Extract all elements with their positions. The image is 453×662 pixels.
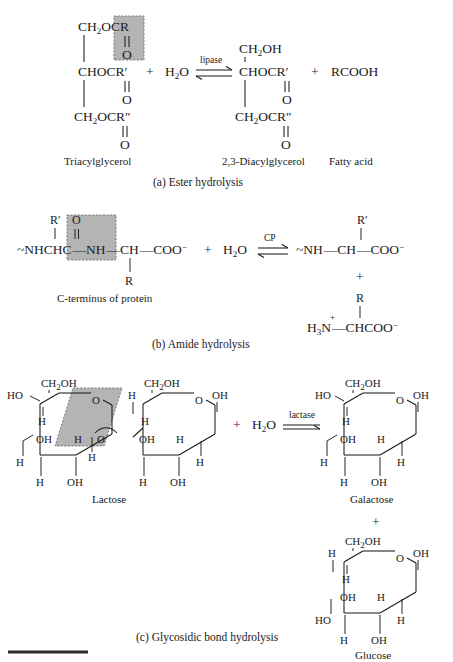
label-diacylglycerol: 2,3-Diacylglycerol — [222, 155, 305, 167]
galactose-ho: HO — [315, 389, 331, 401]
galactose-h-upper: H — [342, 415, 350, 427]
lactose-glc-ch2oh: CH2OH — [144, 377, 180, 392]
lactose-gal-ch2oh: CH2OH — [41, 377, 77, 392]
plus-c-1: + — [233, 417, 241, 432]
glucose-oh-right: OH — [413, 547, 429, 559]
label-fatty-acid: Fatty acid — [329, 155, 373, 167]
lactose-glycosidic-o: O — [97, 433, 105, 445]
arrow-lipase-equilibrium: lipase — [196, 55, 232, 80]
label-lactose: Lactose — [92, 493, 126, 505]
glucose-ch2oh: CH2OH — [345, 535, 381, 550]
peptide-carbonyl-o: O — [72, 213, 81, 227]
galactose-ring-o: O — [396, 394, 404, 406]
plus-b-middle: + — [356, 269, 364, 284]
water-c: H2O — [252, 417, 276, 434]
aminoacid-positive-charge: + — [330, 312, 335, 322]
glucose-oh-bottom: OH — [371, 634, 387, 646]
glucose-h-upper: H — [342, 573, 350, 585]
lactose-glucose-ring: O CH2OH H H OH H OH H H OH — [128, 377, 228, 488]
plus-b-1: + — [204, 242, 212, 257]
lactose-gal-h-lower: H — [88, 451, 96, 463]
product-galactose: O CH2OH HO H OH H H OH H H OH Galactose — [315, 377, 429, 505]
lactose-glc-h-right: H — [196, 456, 204, 468]
lactose-glc-h-upper: H — [141, 415, 149, 427]
label-galactose: Galactose — [350, 493, 393, 505]
peptide-r-prime: R′ — [50, 213, 61, 227]
caption-b: (b) Amide hydrolysis — [152, 338, 250, 351]
glucose-h-bottom: H — [340, 634, 348, 646]
lactose-glc-oh-bottom: OH — [170, 476, 186, 488]
label-c-terminus: C-terminus of protein — [57, 292, 153, 304]
plus-c-products: + — [372, 514, 380, 529]
figure-hydrolysis-reactions: CH2OCR O CHOCR′ O CH2OCR″ O Triacylglyce… — [0, 0, 453, 662]
reactant-lactose: O CH2OH HO H OH H H OH — [7, 377, 228, 505]
plus-a-1: + — [146, 64, 154, 79]
product-glucose: O CH2OH H H OH H OH HO H H OH Glucose — [315, 535, 429, 661]
plus-a-2: + — [311, 64, 319, 79]
glucose-h-inner: H — [377, 591, 385, 603]
galactose-h-left: H — [320, 456, 328, 468]
dag-mid-line: CHOCR′ — [239, 64, 289, 79]
dag-mid-carbonyl-o: O — [282, 92, 292, 107]
aminoacid-backbone: H3N—CHCOO− — [307, 320, 398, 337]
glucose-h-topleft: H — [328, 547, 336, 559]
dag-top-line: CH2OH — [239, 41, 282, 58]
lactose-gal-oh-bottom: OH — [67, 476, 83, 488]
peptide-backbone: ~NHCHC—NH—CH—COO− — [17, 242, 187, 257]
tag-top-carbonyl-o: O — [122, 47, 132, 62]
product-r-prime: R′ — [357, 213, 368, 227]
glucose-oh-upper: OH — [340, 591, 356, 603]
lactose-glc-h-bottom: H — [139, 476, 147, 488]
caption-a: (a) Ester hydrolysis — [153, 176, 244, 189]
water-a: H2O — [165, 64, 189, 81]
enzyme-label-lipase: lipase — [200, 55, 222, 65]
glucose-ho-left: HO — [315, 614, 331, 626]
arrow-lactase-forward: lactase — [283, 410, 320, 429]
galactose-oh-upper: OH — [340, 433, 356, 445]
lactose-gal-h-inner: H — [74, 433, 82, 445]
product-fatty-acid-formula: RCOOH — [331, 64, 379, 79]
galactose-h-right: H — [397, 456, 405, 468]
dag-bot-line: CH2OCR″ — [235, 109, 292, 126]
galactose-ch2oh: CH2OH — [345, 377, 381, 392]
caption-c: (c) Glycosidic bond hydrolysis — [136, 631, 279, 644]
glucose-ring-o: O — [396, 552, 404, 564]
panel-a-ester-hydrolysis: CH2OCR O CHOCR′ O CH2OCR″ O Triacylglyce… — [64, 16, 379, 189]
lactose-gal-h-upper: H — [38, 415, 46, 427]
lactose-gal-oh-upper: OH — [36, 433, 52, 445]
enzyme-label-cp: CP — [264, 233, 276, 243]
lactose-glc-oh-right: OH — [212, 389, 228, 401]
galactose-h-bottom: H — [340, 476, 348, 488]
panel-b-amide-hydrolysis: R′ O ~NHCHC—NH—CH—COO− R C-terminus of p… — [17, 213, 404, 351]
glucose-h-right: H — [397, 614, 405, 626]
lactose-glc-oh-upper: OH — [139, 433, 155, 445]
tag-mid-line: CHOCR′ — [78, 64, 128, 79]
galactose-oh-right: OH — [413, 389, 429, 401]
peptide-r-group: R — [125, 274, 133, 288]
label-triacylglycerol: Triacylglycerol — [64, 155, 131, 167]
lactose-glc-h-left: H — [128, 389, 136, 401]
panel-c-glycosidic-hydrolysis: O CH2OH HO H OH H H OH — [7, 377, 429, 661]
aminoacid-r-group: R — [356, 291, 364, 305]
enzyme-label-lactase: lactase — [289, 410, 315, 420]
lactose-glc-h-inner: H — [176, 433, 184, 445]
tag-bot-carbonyl-o: O — [120, 137, 130, 152]
tag-mid-carbonyl-o: O — [122, 92, 132, 107]
tag-bot-line: CH2OCR″ — [74, 109, 131, 126]
product-diacylglycerol: CH2OH CHOCR′ O CH2OCR″ O 2,3-Diacylglyce… — [222, 41, 305, 167]
lactose-gal-ring-o: O — [92, 394, 100, 406]
water-b: H2O — [223, 242, 247, 259]
lactose-gal-h-bottom: H — [36, 476, 44, 488]
label-glucose: Glucose — [355, 649, 391, 661]
arrow-cp-equilibrium: CP — [258, 233, 288, 258]
product-peptide-backbone: ~NH—CH—COO− — [296, 242, 404, 257]
galactose-oh-bottom: OH — [371, 476, 387, 488]
lactose-glc-ring-o: O — [195, 394, 203, 406]
galactose-h-inner: H — [377, 433, 385, 445]
tag-top-line: CH2OCR — [78, 19, 129, 36]
lactose-gal-ho: HO — [7, 389, 23, 401]
lactose-gal-h-left: H — [16, 456, 24, 468]
dag-bot-carbonyl-o: O — [281, 137, 291, 152]
